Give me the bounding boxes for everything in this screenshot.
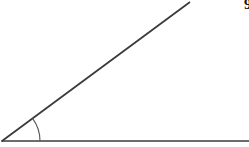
angle-diagram-svg: [0, 0, 249, 147]
diagram-background: [0, 0, 249, 147]
angle-vertex-point: [1, 140, 3, 142]
corner-text-fragment: 9: [244, 0, 249, 11]
angle-figure: 9: [0, 0, 249, 147]
